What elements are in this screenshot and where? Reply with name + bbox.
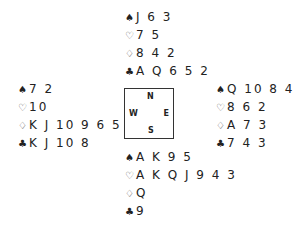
south-clubs-row: ♣9 xyxy=(125,202,237,220)
east-diamonds: A 7 3 xyxy=(227,116,268,134)
north-hearts-row: ♡7 5 xyxy=(125,26,210,44)
south-spades-row: ♠A K 9 5 xyxy=(125,148,237,166)
north-hand: ♠J 6 3 ♡7 5 ♢8 4 2 ♣A Q 6 5 2 xyxy=(125,8,210,80)
heart-icon: ♡ xyxy=(125,27,136,45)
south-diamonds-row: ♢Q xyxy=(125,184,237,202)
east-spades: Q 10 8 4 xyxy=(227,80,294,98)
heart-icon: ♡ xyxy=(125,167,136,185)
east-hand: ♠Q 10 8 4 ♡8 6 2 ♢A 7 3 ♣7 4 3 xyxy=(216,80,294,152)
north-clubs: A Q 6 5 2 xyxy=(136,62,210,80)
west-hearts: 10 xyxy=(29,98,48,116)
east-hearts: 8 6 2 xyxy=(227,98,268,116)
north-diamonds-row: ♢8 4 2 xyxy=(125,44,210,62)
diamond-icon: ♢ xyxy=(125,45,136,63)
south-spades: A K 9 5 xyxy=(136,148,193,166)
compass-east-label: E xyxy=(164,109,169,118)
west-hand: ♠7 2 ♡10 ♢K J 10 9 6 5 ♣K J 10 8 xyxy=(18,80,122,152)
spade-icon: ♠ xyxy=(18,81,29,99)
diamond-icon: ♢ xyxy=(125,185,136,203)
spade-icon: ♠ xyxy=(125,9,136,27)
diamond-icon: ♢ xyxy=(216,117,227,135)
spade-icon: ♠ xyxy=(125,149,136,167)
east-hearts-row: ♡8 6 2 xyxy=(216,98,294,116)
east-diamonds-row: ♢A 7 3 xyxy=(216,116,294,134)
west-clubs-row: ♣K J 10 8 xyxy=(18,134,122,152)
heart-icon: ♡ xyxy=(18,99,29,117)
north-clubs-row: ♣A Q 6 5 2 xyxy=(125,62,210,80)
club-icon: ♣ xyxy=(125,203,136,221)
south-diamonds: Q xyxy=(136,184,147,202)
diamond-icon: ♢ xyxy=(18,117,29,135)
compass-north-label: N xyxy=(147,92,154,101)
club-icon: ♣ xyxy=(125,63,136,81)
spade-icon: ♠ xyxy=(216,81,227,99)
west-diamonds-row: ♢K J 10 9 6 5 xyxy=(18,116,122,134)
north-spades-row: ♠J 6 3 xyxy=(125,8,210,26)
compass-south-label: S xyxy=(148,126,154,135)
compass-west-label: W xyxy=(129,109,138,118)
west-spades: 7 2 xyxy=(29,80,54,98)
west-diamonds: K J 10 9 6 5 xyxy=(29,116,122,134)
west-spades-row: ♠7 2 xyxy=(18,80,122,98)
club-icon: ♣ xyxy=(18,135,29,153)
heart-icon: ♡ xyxy=(216,99,227,117)
north-hearts: 7 5 xyxy=(136,26,161,44)
south-clubs: 9 xyxy=(136,202,146,220)
east-spades-row: ♠Q 10 8 4 xyxy=(216,80,294,98)
compass-box: N W E S xyxy=(124,88,174,139)
south-hand: ♠A K 9 5 ♡A K Q J 9 4 3 ♢Q ♣9 xyxy=(125,148,237,220)
west-clubs: K J 10 8 xyxy=(29,134,91,152)
west-hearts-row: ♡10 xyxy=(18,98,122,116)
north-diamonds: 8 4 2 xyxy=(136,44,177,62)
north-spades: J 6 3 xyxy=(136,8,172,26)
south-hearts-row: ♡A K Q J 9 4 3 xyxy=(125,166,237,184)
south-hearts: A K Q J 9 4 3 xyxy=(136,166,237,184)
